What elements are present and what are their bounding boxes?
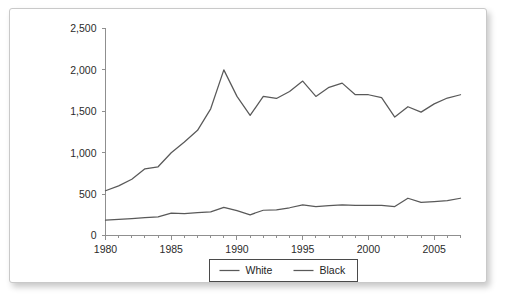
x-tick-label: 2000	[357, 243, 381, 255]
y-tick-label: 2,500	[70, 22, 96, 34]
y-tick-label: 2,000	[70, 64, 96, 76]
line-chart: 05001,0001,5002,0002,500 198019851990199…	[10, 9, 486, 282]
y-tick-label: 0	[91, 229, 97, 241]
y-axis-ticks	[102, 29, 106, 236]
y-tick-label: 1,000	[70, 147, 96, 159]
x-axis: 198019851990199520002005	[94, 236, 461, 255]
y-tick-label: 500	[79, 188, 97, 200]
legend-label-black: Black	[320, 264, 346, 276]
chart-figure-frame: 05001,0001,5002,0002,500 198019851990199…	[9, 8, 487, 283]
x-axis-tick-labels: 198019851990199520002005	[94, 243, 446, 255]
chart-legend: WhiteBlack	[210, 260, 358, 282]
y-axis: 05001,0001,5002,0002,500	[70, 22, 105, 241]
x-tick-label: 1990	[225, 243, 249, 255]
chart-series-group	[106, 70, 461, 220]
series-line-white	[106, 70, 461, 191]
x-tick-label: 1985	[160, 243, 184, 255]
series-line-black	[106, 198, 461, 220]
y-tick-label: 1,500	[70, 105, 96, 117]
x-axis-ticks	[106, 236, 435, 241]
x-tick-label: 1980	[94, 243, 118, 255]
x-tick-label: 2005	[423, 243, 447, 255]
x-tick-label: 1995	[291, 243, 315, 255]
y-axis-tick-labels: 05001,0001,5002,0002,500	[70, 22, 96, 241]
legend-label-white: White	[246, 264, 273, 276]
